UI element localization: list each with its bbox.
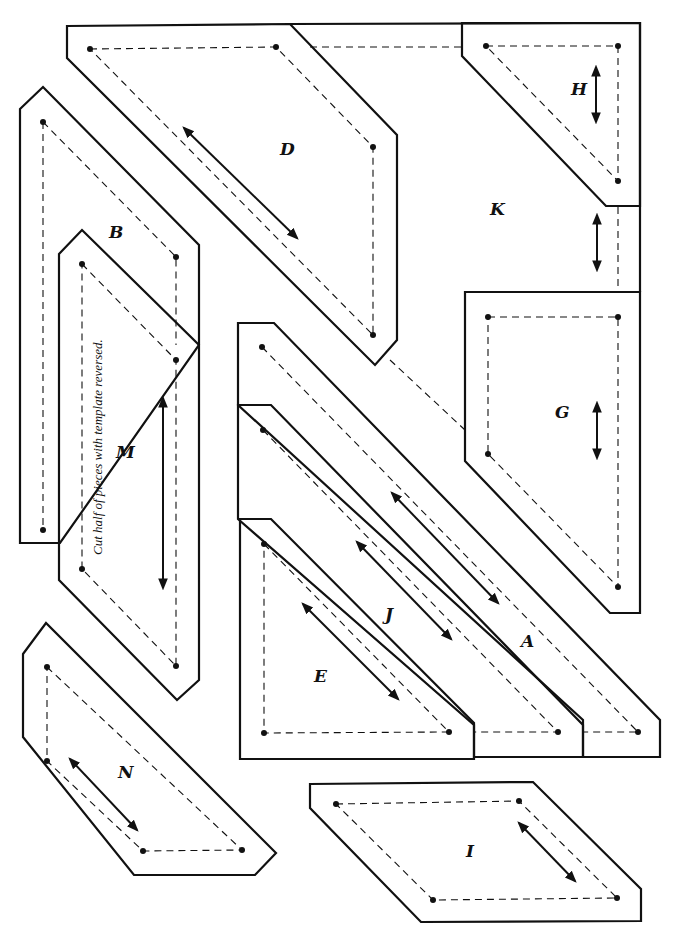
reverse-template-note: Cut half of pieces with template reverse… [90, 339, 105, 555]
piece-label-h: H [570, 79, 588, 99]
piece-label-i: I [465, 841, 475, 861]
piece-d: D [67, 24, 397, 365]
piece-n: N [23, 623, 276, 875]
template-sheet: D K H G B M Cu [0, 0, 677, 940]
piece-b: B [20, 87, 199, 543]
piece-j: J [238, 405, 583, 757]
piece-label-e: E [313, 666, 328, 686]
piece-label-j: J [382, 604, 394, 624]
piece-label-d: D [279, 139, 295, 159]
piece-label-m: M [115, 442, 136, 462]
grain-arrow-icon [392, 493, 498, 603]
piece-a: A [238, 323, 660, 757]
piece-e: E [240, 519, 474, 759]
piece-label-a: A [519, 631, 534, 651]
piece-i: I [310, 782, 641, 922]
piece-label-n: N [117, 762, 135, 782]
grain-arrow-icon [519, 823, 575, 881]
piece-label-b: B [108, 222, 123, 242]
piece-label-g: G [555, 402, 570, 422]
piece-m: M Cut half of pieces with template rever… [59, 230, 199, 700]
piece-g: G [465, 292, 640, 613]
piece-h: H [462, 23, 640, 206]
piece-label-k: K [489, 199, 506, 219]
